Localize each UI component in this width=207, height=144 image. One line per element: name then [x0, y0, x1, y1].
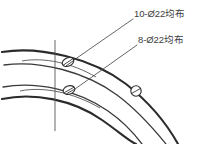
- hole-lower-right: [131, 86, 141, 96]
- drawing-svg: [0, 0, 207, 144]
- engineering-drawing-canvas: 10-Ø22均布 8-Ø22均布: [0, 0, 207, 144]
- leader-line-holes-8: [75, 45, 137, 89]
- annotation-holes-8: 8-Ø22均布: [138, 35, 184, 45]
- annotation-holes-10: 10-Ø22均布: [134, 9, 185, 19]
- centerline-arc-lower: [20, 89, 100, 108]
- arc-inner-top: [4, 64, 166, 144]
- arc-outer-bottom: [2, 97, 136, 144]
